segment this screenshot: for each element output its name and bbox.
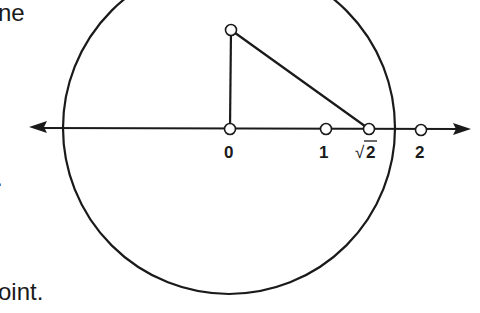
one-point <box>321 124 332 135</box>
triangle-hypotenuse <box>231 30 369 129</box>
label-one: 1 <box>319 143 328 162</box>
label-sqrt2: √ 2 <box>355 141 377 162</box>
number-line-axis <box>42 128 458 129</box>
two-point <box>416 125 427 136</box>
label-zero: 0 <box>224 143 233 162</box>
sqrt-value: 2 <box>366 143 375 162</box>
triangle-vertical-leg <box>230 30 231 129</box>
sqrt-radical-icon: √ <box>355 143 365 162</box>
origin-point <box>225 124 236 135</box>
apex-point <box>226 25 237 36</box>
number-line-diagram: 0 1 √ 2 2 <box>0 0 480 313</box>
sqrt2-point <box>364 124 375 135</box>
label-two: 2 <box>415 143 424 162</box>
